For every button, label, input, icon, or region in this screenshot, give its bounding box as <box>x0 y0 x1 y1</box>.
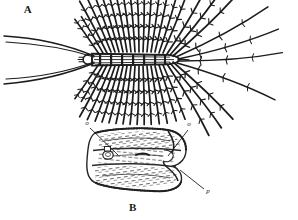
part-label-p: p <box>205 187 210 195</box>
figure-b-band-3 <box>95 166 177 187</box>
engraving-plate: A <box>0 0 298 220</box>
figure-a-label: A <box>24 3 32 15</box>
plate-canvas: A <box>0 0 298 220</box>
figure-b-label: B <box>129 201 137 213</box>
part-label-o-right: o <box>187 120 191 128</box>
part-label-o-left: o <box>85 119 89 127</box>
